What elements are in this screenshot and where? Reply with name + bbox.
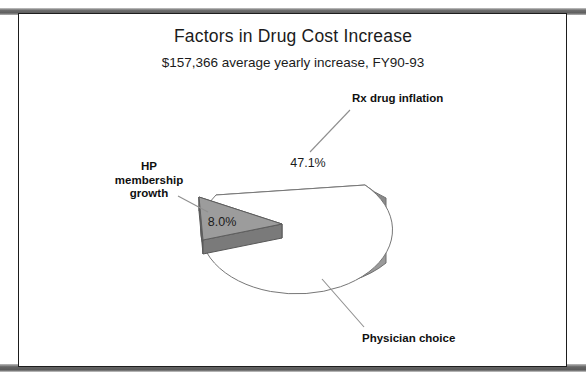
callout-hp-membership-growth: HP membership growth bbox=[100, 160, 198, 201]
figure-root: Factors in Drug Cost Increase $157,366 a… bbox=[0, 0, 586, 382]
pie-chart: 45.0% 47.1% 8.0% bbox=[0, 0, 586, 382]
pie-label-rx-pct: 47.1% bbox=[290, 156, 325, 170]
leader-line-rx bbox=[310, 110, 350, 152]
callout-hp-line3: growth bbox=[100, 187, 198, 201]
callout-rx-drug-inflation: Rx drug inflation bbox=[352, 92, 443, 106]
pie-label-hp-pct: 8.0% bbox=[208, 215, 237, 229]
callout-hp-line2: membership bbox=[100, 174, 198, 188]
callout-hp-line1: HP bbox=[100, 160, 198, 174]
callout-physician-choice: Physician choice bbox=[362, 332, 455, 346]
